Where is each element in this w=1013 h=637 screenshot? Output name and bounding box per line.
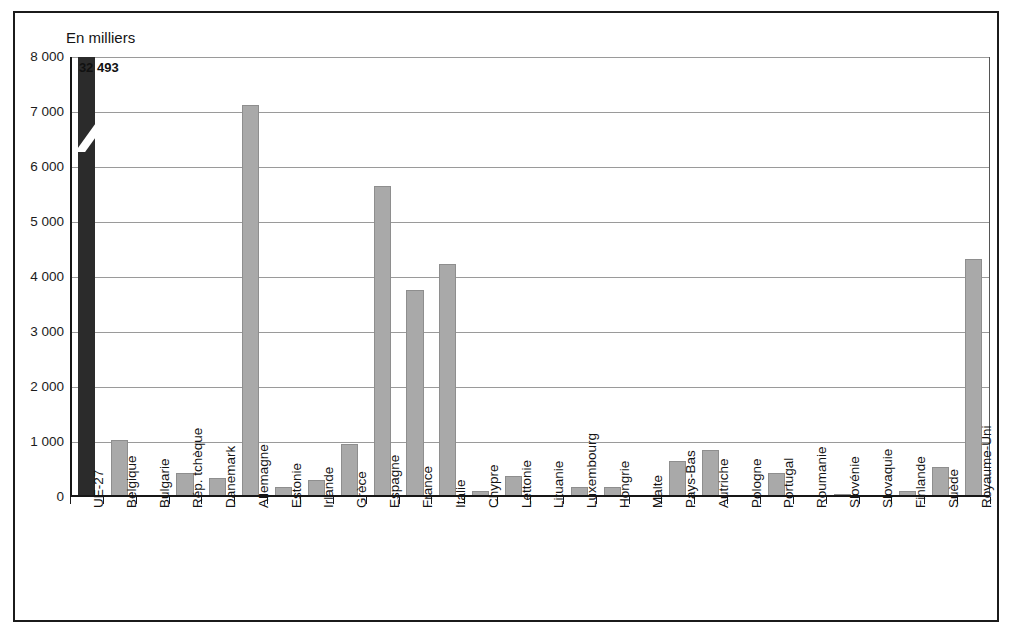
x-tick-label: Malte [651,475,665,508]
x-tick-label: Irlande [322,467,336,508]
x-tick-label: Italie [454,479,468,508]
x-tick-label: Finlande [914,456,928,508]
x-tick-label: Estonie [290,463,304,508]
x-tick-label: Allemagne [257,444,271,508]
x-tick-label: Rép. tchèque [191,428,205,508]
x-tick-label: Belgique [125,455,139,508]
x-tick-label: Lituanie [552,461,566,508]
x-tick-label: Hongrie [618,461,632,508]
x-tick-label: Autriche [717,458,731,508]
x-tick-label: Chypre [487,464,501,508]
x-tick-label: Portugal [782,458,796,508]
x-tick-label: UE-27 [92,470,106,508]
x-tick-label: Lettonie [520,460,534,508]
x-axis-labels: UE-27BelgiqueBulgarieRép. tchèqueDanemar… [0,0,1013,637]
x-tick-label: Bulgarie [158,458,172,508]
x-tick-label: Pays-Bas [684,450,698,508]
x-tick-label: Espagne [388,455,402,508]
x-tick-label: Slovaquie [881,449,895,508]
chart-figure: En milliers 01 0002 0003 0004 0005 0006 … [0,0,1013,637]
x-tick-label: Suède [947,469,961,508]
x-tick-label: France [421,466,435,508]
x-tick-label: Slovénie [848,456,862,508]
x-tick-label: Luxembourg [585,433,599,508]
x-tick-label: Pologne [750,458,764,508]
x-tick-label: Roumanie [815,446,829,508]
x-tick-label: Grèce [355,471,369,508]
x-tick-label: Danemark [224,446,238,508]
x-tick-label: Royaume-Uni [980,425,994,508]
